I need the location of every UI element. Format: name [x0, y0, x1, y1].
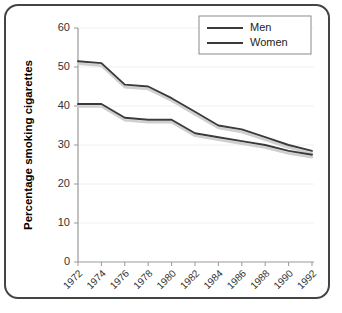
y-tick-label: 40 [58, 99, 70, 111]
x-tick-label: 1990 [272, 267, 296, 291]
x-tick-label: 1980 [155, 267, 179, 291]
x-tick-label: 1984 [201, 267, 225, 291]
x-tick-label: 1988 [248, 267, 272, 291]
x-tick-label: 1974 [84, 267, 108, 291]
x-tick-label: 1972 [61, 267, 85, 291]
y-tick-label: 0 [64, 255, 70, 267]
line-chart: 0102030405060 19721974197619781980198219… [0, 0, 342, 313]
y-tick-label: 20 [58, 177, 70, 189]
x-tick-label: 1982 [178, 267, 202, 291]
gridlines [78, 28, 314, 223]
x-axis-tick-labels: 1972197419761978198019821984198619881990… [61, 267, 319, 291]
y-tick-label: 30 [58, 138, 70, 150]
x-tick-label: 1978 [131, 267, 155, 291]
x-tick-label: 1986 [225, 267, 249, 291]
series-shadow-men [78, 64, 312, 154]
legend-label-men: Men [250, 21, 271, 33]
data-series-group [78, 61, 312, 157]
legend-label-women: Women [250, 36, 288, 48]
y-tick-label: 50 [58, 60, 70, 72]
x-tick-label: 1992 [295, 267, 319, 291]
y-axis-title: Percentage smoking cigarettes [22, 60, 34, 230]
y-tick-label: 10 [58, 216, 70, 228]
y-axis-tick-labels: 0102030405060 [58, 21, 70, 267]
chart-legend: MenWomen [199, 16, 311, 54]
y-tick-label: 60 [58, 21, 70, 33]
chart-page: 0102030405060 19721974197619781980198219… [0, 0, 342, 313]
x-tick-label: 1976 [108, 267, 132, 291]
